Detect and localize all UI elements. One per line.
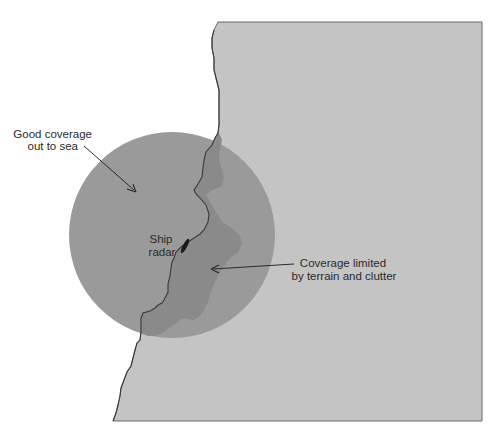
label-limited-line2: by terrain and clutter [292, 270, 397, 282]
label-ship-line1: Ship [149, 233, 172, 245]
radar-coverage-diagram: Good coverage out to sea Ship radar Cove… [0, 0, 502, 444]
label-good-coverage-line2: out to sea [27, 140, 78, 152]
label-ship-line2: radar [149, 246, 176, 258]
label-good-coverage-line1: Good coverage [13, 128, 92, 140]
label-limited-line1: Coverage limited [300, 257, 386, 269]
